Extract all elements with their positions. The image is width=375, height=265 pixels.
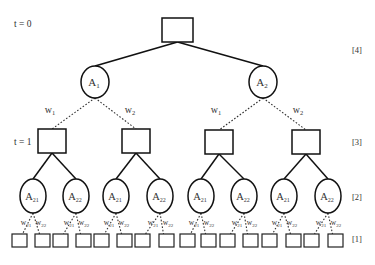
leaf-node xyxy=(12,234,27,247)
weight-label-w1-subscript: 1 xyxy=(218,109,221,116)
leaf-node xyxy=(53,234,68,247)
leaf-node xyxy=(180,234,195,247)
decision-to-action-edge xyxy=(201,154,219,179)
weight-label-w22: w22 xyxy=(331,218,342,228)
leaf-node xyxy=(328,234,343,247)
weight-label-w22: w22 xyxy=(119,218,130,228)
weight-label-w21-subscript: 21 xyxy=(26,223,32,228)
decision-to-action-edge xyxy=(116,153,136,179)
decision-node-t1 xyxy=(205,130,233,154)
weight-label-w22-subscript: 22 xyxy=(84,223,90,228)
leaf-node xyxy=(117,234,132,247)
weight-label-w22-subscript: 22 xyxy=(168,223,174,228)
level-label: [3] xyxy=(352,137,362,147)
decision-to-action-edge xyxy=(52,153,76,179)
weight-label-w22: w22 xyxy=(287,218,298,228)
leaf-node xyxy=(159,234,174,247)
decision-node-t1 xyxy=(38,129,66,153)
leaf-node xyxy=(286,234,301,247)
weight-label-w22-subscript: 22 xyxy=(124,223,130,228)
decision-node-t1 xyxy=(122,129,150,153)
weight-label-w21-subscript: 21 xyxy=(277,223,283,228)
action-label-a22-subscript: 22 xyxy=(244,197,250,203)
leaf-node xyxy=(94,234,109,247)
weight-label-w21-subscript: 21 xyxy=(321,223,327,228)
weight-label-w2-subscript: 2 xyxy=(132,109,135,116)
action-label-a1-main: A xyxy=(88,76,96,88)
leaf-node xyxy=(243,234,258,247)
weight-label-w22-subscript: 22 xyxy=(41,223,47,228)
weight-label-w21-subscript: 21 xyxy=(109,223,115,228)
weight-label-w2: w2 xyxy=(125,104,135,116)
weight-label-w21: w21 xyxy=(232,218,243,228)
chance-edge xyxy=(219,98,263,130)
decision-node-t1 xyxy=(292,130,320,154)
weight-label-w22-subscript: 22 xyxy=(209,223,215,228)
decision-tree-diagram: A1A2w1w2w1w2A21w21w22A22w21w22A21w21w22A… xyxy=(0,0,375,265)
action-label-a22-subscript: 22 xyxy=(160,197,166,203)
weight-label-w22-subscript: 22 xyxy=(252,223,258,228)
weight-label-w2-subscript: 2 xyxy=(300,109,303,116)
weight-label-w22-subscript: 22 xyxy=(336,223,342,228)
time-label: t = 0 xyxy=(14,19,32,29)
root-to-action-edge xyxy=(178,42,264,66)
level-label: [2] xyxy=(352,192,362,202)
weight-label-w1-subscript: 1 xyxy=(52,109,55,116)
action-label-a22-subscript: 22 xyxy=(76,197,82,203)
decision-to-action-edge xyxy=(136,153,160,179)
action-label-a21-subscript: 21 xyxy=(201,197,207,203)
weight-label-w21-subscript: 21 xyxy=(237,223,243,228)
leaf-node xyxy=(304,234,319,247)
leaf-node xyxy=(201,234,216,247)
decision-to-action-edge xyxy=(284,154,306,179)
leaf-node xyxy=(35,234,50,247)
leaf-node xyxy=(262,234,277,247)
level-label: [1] xyxy=(352,234,362,244)
weight-label-w1: w1 xyxy=(211,104,221,116)
weight-label-w21-subscript: 21 xyxy=(194,223,200,228)
weight-label-w21: w21 xyxy=(148,218,159,228)
weight-label-w22: w22 xyxy=(36,218,47,228)
chance-edge xyxy=(52,98,95,129)
weight-label-w21: w21 xyxy=(64,218,75,228)
weight-label-w1: w1 xyxy=(45,104,55,116)
action-label-a21-subscript: 21 xyxy=(284,197,290,203)
leaf-node xyxy=(76,234,91,247)
weight-label-w22: w22 xyxy=(79,218,90,228)
weight-label-w22: w22 xyxy=(247,218,258,228)
leaf-node xyxy=(220,234,235,247)
decision-to-action-edge xyxy=(306,154,328,179)
level-label: [4] xyxy=(352,45,362,55)
weight-label-w21: w21 xyxy=(316,218,327,228)
action-label-a22-subscript: 22 xyxy=(328,197,334,203)
weight-label-w22: w22 xyxy=(163,218,174,228)
action-label-a2-main: A xyxy=(256,76,264,88)
tree-nodes xyxy=(12,18,343,247)
root-decision-node xyxy=(162,18,193,42)
leaf-node xyxy=(135,234,150,247)
action-label-a2-subscript: 2 xyxy=(264,82,268,90)
root-to-action-edge xyxy=(95,42,178,66)
decision-to-action-edge xyxy=(33,153,52,179)
time-label: t = 1 xyxy=(14,137,32,147)
weight-label-w22-subscript: 22 xyxy=(292,223,298,228)
weight-label-w21-subscript: 21 xyxy=(153,223,159,228)
weight-label-w21-subscript: 21 xyxy=(69,223,75,228)
action-label-a1-subscript: 1 xyxy=(96,82,100,90)
decision-to-action-edge xyxy=(219,154,244,179)
weight-label-w2: w2 xyxy=(293,104,303,116)
weight-label-w22: w22 xyxy=(204,218,215,228)
action-label-a21-subscript: 21 xyxy=(116,197,122,203)
action-label-a21-subscript: 21 xyxy=(33,197,39,203)
